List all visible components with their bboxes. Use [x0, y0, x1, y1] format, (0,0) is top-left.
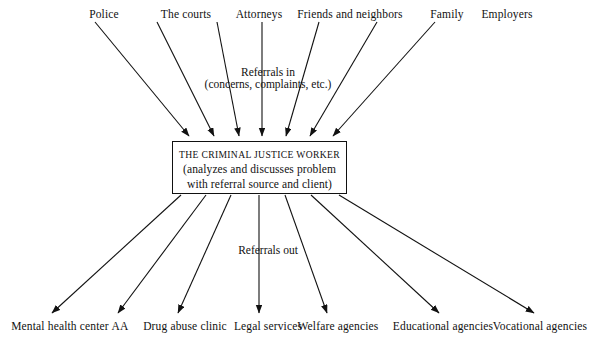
- destination-label-vocational-agencies: Vocational agencies: [493, 320, 587, 332]
- source-label-family: Family: [430, 8, 464, 20]
- destination-label-drug-abuse-clinic: Drug abuse clinic: [143, 320, 227, 332]
- source-label-the-courts: The courts: [161, 8, 211, 20]
- arrow-police: [95, 22, 189, 136]
- referrals-out-caption: Referrals out: [238, 244, 298, 256]
- referrals-in-line2: (concerns, complaints, etc.): [205, 78, 332, 90]
- destination-label-legal-services: Legal services: [234, 320, 302, 332]
- source-label-friends-and-neighbors: Friends and neighbors: [297, 8, 402, 20]
- arrow-educational-agencies: [311, 195, 439, 313]
- arrow-vocational-agencies: [339, 195, 534, 313]
- destination-label-mental-health-center: Mental health center: [11, 320, 109, 332]
- central-node-line2: (analyzes and discusses problem: [173, 162, 346, 177]
- referral-flow-diagram: Police The courts Attorneys Friends and …: [0, 0, 590, 344]
- central-node-title: THE CRIMINAL JUSTICE WORKER: [173, 148, 346, 162]
- source-label-attorneys: Attorneys: [236, 8, 283, 20]
- destination-label-welfare-agencies: Welfare agencies: [298, 320, 379, 332]
- source-label-employers: Employers: [481, 8, 532, 20]
- referrals-in-line1: Referrals in: [241, 66, 295, 78]
- arrow-drug-abuse-clinic: [178, 195, 231, 313]
- destination-label-educational-agencies: Educational agencies: [393, 320, 493, 332]
- arrow-employers: [333, 22, 435, 136]
- central-node-line3: with referral source and client): [173, 177, 346, 192]
- source-label-police: Police: [89, 8, 119, 20]
- referrals-in-caption: Referrals in (concerns, complaints, etc.…: [205, 66, 332, 90]
- destination-label-aa: AA: [112, 320, 129, 332]
- central-node-criminal-justice-worker: THE CRIMINAL JUSTICE WORKER (analyzes an…: [172, 141, 347, 194]
